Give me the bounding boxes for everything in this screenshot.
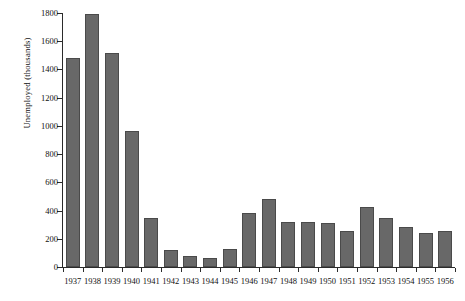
x-tick-label: 1949 bbox=[300, 276, 317, 286]
x-tick-mark bbox=[279, 268, 280, 272]
bar bbox=[242, 213, 256, 267]
x-tick-label: 1939 bbox=[104, 276, 121, 286]
x-tick-mark bbox=[102, 268, 103, 272]
bar bbox=[203, 258, 217, 267]
bar bbox=[183, 256, 197, 267]
bar bbox=[105, 53, 119, 267]
plot-area bbox=[63, 13, 455, 267]
bar bbox=[301, 222, 315, 267]
x-tick-mark bbox=[298, 268, 299, 272]
y-tick-label: 800 bbox=[45, 149, 58, 159]
x-tick-mark bbox=[220, 268, 221, 272]
x-tick-mark bbox=[161, 268, 162, 272]
x-tick-mark bbox=[337, 268, 338, 272]
x-tick-label: 1946 bbox=[241, 276, 258, 286]
x-tick-label: 1951 bbox=[339, 276, 356, 286]
bar bbox=[262, 199, 276, 267]
x-tick-mark bbox=[396, 268, 397, 272]
bar bbox=[85, 14, 99, 267]
x-tick-label: 1940 bbox=[123, 276, 140, 286]
x-tick-label: 1953 bbox=[378, 276, 395, 286]
x-tick-mark bbox=[63, 268, 64, 272]
bar bbox=[125, 131, 139, 267]
y-tick-label: 1200 bbox=[41, 93, 58, 103]
bar-chart: Unemployed (thousands) 02004006008001000… bbox=[0, 0, 465, 301]
x-tick-mark bbox=[181, 268, 182, 272]
bar bbox=[419, 233, 433, 267]
bar bbox=[340, 231, 354, 267]
y-tick-label: 1800 bbox=[41, 8, 58, 18]
bar bbox=[66, 58, 80, 267]
y-tick-label: 600 bbox=[45, 177, 58, 187]
x-tick-mark bbox=[141, 268, 142, 272]
x-tick-label: 1941 bbox=[143, 276, 160, 286]
x-tick-label: 1945 bbox=[221, 276, 238, 286]
x-tick-label: 1955 bbox=[417, 276, 434, 286]
bar bbox=[379, 218, 393, 267]
x-tick-label: 1950 bbox=[319, 276, 336, 286]
x-tick-label: 1956 bbox=[437, 276, 454, 286]
bar bbox=[164, 250, 178, 267]
x-tick-mark bbox=[122, 268, 123, 272]
bar bbox=[281, 222, 295, 267]
x-tick-mark bbox=[259, 268, 260, 272]
x-tick-mark bbox=[318, 268, 319, 272]
y-tick-label: 1600 bbox=[41, 36, 58, 46]
x-tick-mark bbox=[435, 268, 436, 272]
bar bbox=[360, 207, 374, 267]
bar bbox=[399, 227, 413, 267]
y-axis-title: Unemployed (thousands) bbox=[22, 0, 32, 168]
bar bbox=[144, 218, 158, 267]
y-tick-label: 200 bbox=[45, 234, 58, 244]
x-tick-label: 1944 bbox=[202, 276, 219, 286]
x-tick-mark bbox=[416, 268, 417, 272]
x-tick-label: 1954 bbox=[398, 276, 415, 286]
x-tick-label: 1948 bbox=[280, 276, 297, 286]
x-tick-label: 1952 bbox=[358, 276, 375, 286]
x-tick-mark bbox=[83, 268, 84, 272]
bar bbox=[321, 223, 335, 267]
x-tick-label: 1943 bbox=[182, 276, 199, 286]
x-tick-mark bbox=[357, 268, 358, 272]
x-tick-mark bbox=[377, 268, 378, 272]
bar bbox=[438, 231, 452, 267]
bar bbox=[223, 249, 237, 267]
x-tick-mark bbox=[239, 268, 240, 272]
y-tick-label: 1400 bbox=[41, 64, 58, 74]
y-tick-label: 1000 bbox=[41, 121, 58, 131]
y-tick-label: 0 bbox=[54, 262, 58, 272]
x-tick-label: 1938 bbox=[84, 276, 101, 286]
x-tick-label: 1937 bbox=[64, 276, 81, 286]
x-axis-labels: 1937193819391940194119421943194419451946… bbox=[63, 268, 455, 290]
x-tick-mark bbox=[200, 268, 201, 272]
x-tick-label: 1942 bbox=[162, 276, 179, 286]
y-tick-label: 400 bbox=[45, 206, 58, 216]
x-tick-label: 1947 bbox=[260, 276, 277, 286]
x-tick-mark bbox=[455, 268, 456, 272]
